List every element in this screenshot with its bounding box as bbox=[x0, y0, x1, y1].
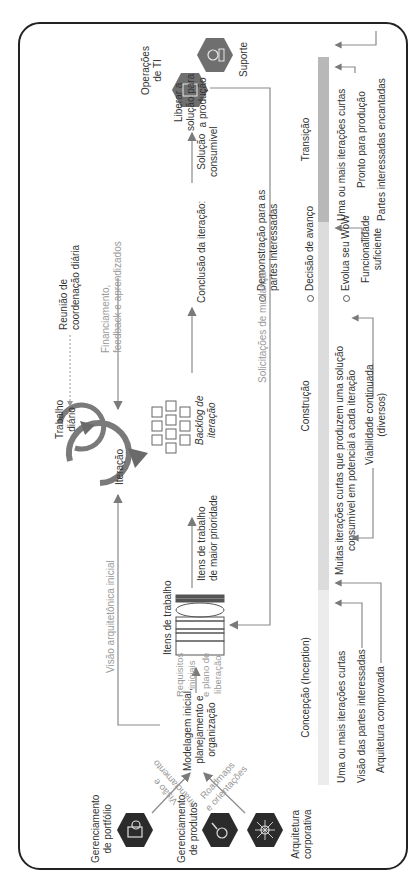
architecture-label: Arquitetura corporativa bbox=[290, 810, 314, 859]
portfolio-hex-icon bbox=[117, 813, 153, 847]
phase-inception-title: Concepção (Inception) bbox=[300, 590, 311, 785]
transition-milestone-1: Pronto para produção bbox=[356, 91, 368, 188]
change-requests-label: Solicitações de mudança bbox=[257, 272, 269, 383]
construction-description: Muitas iterações curtas que produzem uma… bbox=[334, 346, 358, 575]
products-hex-icon bbox=[202, 813, 238, 847]
consumable-solution-label: Solução consumível bbox=[196, 126, 220, 177]
lifecycle-diagram: Gerenciamento de portfólio Gerenciamento… bbox=[0, 0, 420, 893]
iteration-label: Iteração bbox=[114, 449, 126, 485]
inception-milestone-2: Arquitetura comprovada bbox=[375, 666, 387, 773]
transition-description: Uma ou mais iterações curtas bbox=[336, 89, 348, 221]
daily-meeting-label: Reunião de coordenação diária bbox=[58, 245, 82, 330]
work-items-stack-icon bbox=[176, 595, 224, 655]
iteration-backlog-label: Backlog de iteração bbox=[194, 396, 218, 445]
inception-description: Uma ou mais iterações curtas bbox=[336, 651, 348, 783]
iteration-backlog-icon bbox=[152, 401, 190, 453]
it-operations-label: Operações de TI bbox=[140, 46, 164, 95]
support-label: Suporte bbox=[238, 42, 250, 77]
phase-transition-title: Transição bbox=[300, 57, 311, 222]
transition-milestone-2: Partes interessadas encantadas bbox=[376, 78, 388, 221]
construction-milestone-2: Funcionalidade suficiente bbox=[360, 215, 384, 283]
release-plan-label: e plano de liberação bbox=[200, 653, 224, 697]
inception-milestone-1: Visão das partes interessadas bbox=[356, 649, 368, 783]
initial-arch-vision-label: Visão arquitetônica inicial bbox=[105, 560, 117, 673]
highest-priority-label: Itens de trabalho de maior prioridade bbox=[196, 495, 220, 581]
release-to-production-label: Liberar a solução para a produção bbox=[173, 74, 209, 131]
initial-modeling-label: Modelagem inicial, planejamento e organi… bbox=[182, 688, 218, 771]
architecture-hex-icon bbox=[247, 813, 283, 847]
iteration-conclusion-title: Conclusão da iteração: bbox=[196, 190, 208, 303]
initial-requirements-label: Requisitos iniciais bbox=[174, 653, 198, 697]
work-items-label: Itens de trabalho bbox=[162, 581, 174, 656]
funding-feedback-label: Financiamento, feedback e aprendizados bbox=[100, 241, 124, 353]
phase-construction-title: Construção bbox=[300, 222, 311, 590]
support-hex-icon bbox=[197, 38, 233, 72]
construction-milestone-1: Viabilidade continuada (diversos) bbox=[364, 365, 388, 465]
daily-work-label: Trabalho diário bbox=[54, 400, 78, 439]
portfolio-label: Gerenciamento de portfólio bbox=[90, 795, 114, 863]
